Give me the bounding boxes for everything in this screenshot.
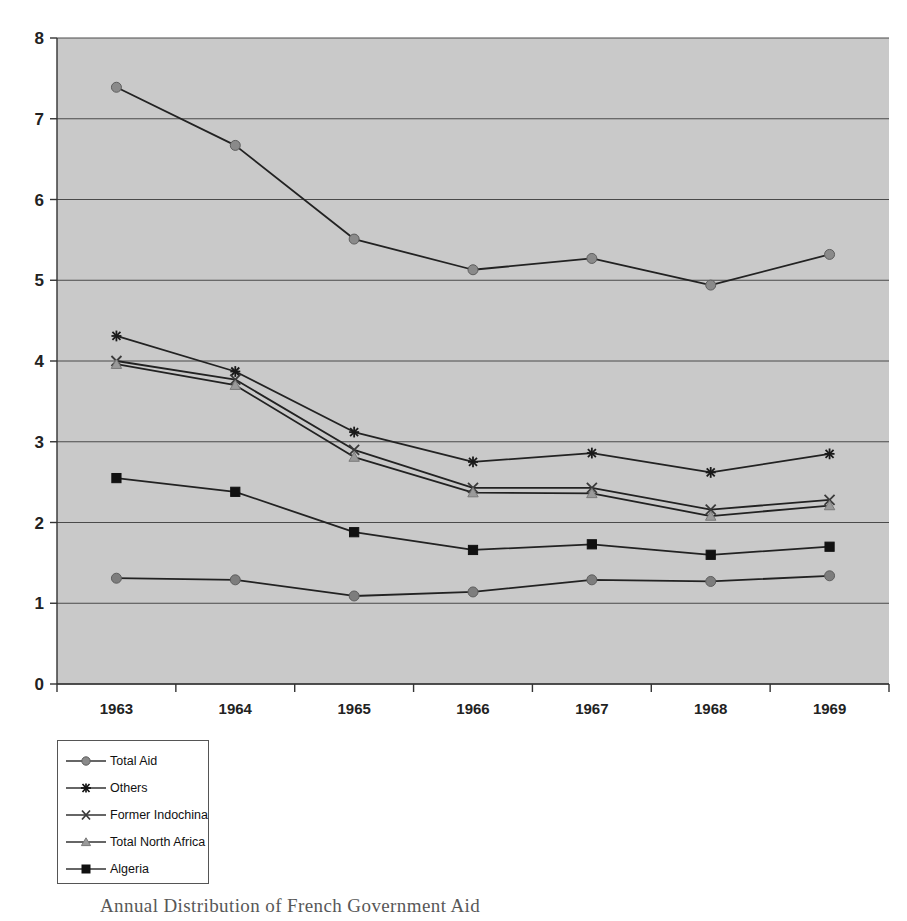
square-marker-icon — [64, 861, 108, 877]
svg-text:1966: 1966 — [456, 700, 489, 717]
svg-text:6: 6 — [35, 191, 44, 210]
legend-item-total-north-africa[interactable]: Total North Africa — [58, 828, 208, 855]
triangle-marker-icon — [64, 834, 108, 850]
legend-label: Total Aid — [110, 754, 157, 768]
figure-caption: Annual Distribution of French Government… — [100, 895, 860, 921]
circle-marker-icon — [64, 753, 108, 769]
legend-item-former-indochina[interactable]: Former Indochina — [58, 801, 208, 828]
svg-text:4: 4 — [35, 352, 45, 371]
legend-label: Former Indochina — [110, 808, 208, 822]
legend-label: Others — [110, 781, 148, 795]
svg-text:1968: 1968 — [694, 700, 727, 717]
legend-item-algeria[interactable]: Algeria — [58, 855, 208, 882]
svg-text:1964: 1964 — [219, 700, 253, 717]
svg-text:2: 2 — [35, 514, 44, 533]
legend-label: Total North Africa — [110, 835, 205, 849]
chart-legend: Total Aid Others — [57, 740, 209, 884]
svg-text:0: 0 — [35, 675, 44, 694]
svg-text:1: 1 — [35, 594, 44, 613]
legend-label: Algeria — [110, 862, 149, 876]
chart-figure: 0123456781963196419651966196719681969 To… — [0, 0, 907, 921]
legend-item-others[interactable]: Others — [58, 774, 208, 801]
svg-text:8: 8 — [35, 29, 44, 48]
svg-text:1967: 1967 — [575, 700, 608, 717]
cross-marker-icon — [64, 807, 108, 823]
svg-text:7: 7 — [35, 110, 44, 129]
legend-item-total-aid[interactable]: Total Aid — [58, 747, 208, 774]
svg-text:1969: 1969 — [813, 700, 846, 717]
asterisk-marker-icon — [64, 780, 108, 796]
svg-text:3: 3 — [35, 433, 44, 452]
svg-text:1963: 1963 — [100, 700, 133, 717]
svg-text:1965: 1965 — [337, 700, 370, 717]
svg-text:5: 5 — [35, 271, 44, 290]
